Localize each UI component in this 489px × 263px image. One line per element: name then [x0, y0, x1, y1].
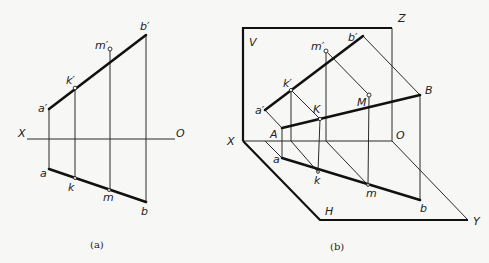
label-k: k: [68, 181, 75, 194]
label-o: O: [176, 127, 185, 140]
label-a-prime: a′: [255, 104, 265, 117]
label-b: b: [420, 202, 427, 215]
label-a-prime: a′: [38, 102, 48, 115]
label-M: M: [357, 96, 367, 109]
projection-diagram: b′ m′ k′ a′ X O a k m b (a): [0, 0, 489, 263]
label-m-prime: m′: [311, 40, 325, 53]
label-z: Z: [397, 12, 406, 25]
label-k-prime: k′: [66, 74, 75, 87]
point-K: [318, 117, 321, 120]
projector-a-prime-A: [265, 110, 282, 128]
label-k-prime: k′: [283, 77, 292, 90]
label-y: Y: [473, 215, 481, 228]
point-m-prime: [324, 49, 328, 53]
label-a: a: [273, 153, 280, 166]
caption-b: (b): [330, 241, 344, 252]
point-m-prime: [108, 47, 112, 51]
label-B: B: [425, 84, 433, 97]
line-ab: [282, 158, 420, 200]
caption-a: (a): [90, 239, 104, 250]
label-m: m: [103, 191, 114, 204]
label-b-prime: b′: [140, 20, 150, 33]
label-v: V: [249, 36, 258, 49]
line-ab: [49, 169, 146, 202]
vertical-K-k: [318, 119, 320, 172]
point-m: [367, 184, 370, 187]
point-M: [367, 93, 371, 97]
label-h: H: [325, 205, 333, 218]
label-x: X: [226, 135, 235, 148]
point-k: [317, 171, 320, 174]
label-b: b: [141, 205, 148, 218]
label-A: A: [269, 128, 278, 141]
label-x: X: [17, 127, 26, 140]
label-o: O: [396, 129, 405, 142]
figure-b: V Z b′ m′ k′ a′ K M B A X O a k m b H Y …: [226, 12, 481, 252]
label-b-prime: b′: [348, 31, 358, 44]
label-K: K: [313, 103, 321, 116]
label-a: a: [40, 167, 47, 180]
point-k: [74, 177, 77, 180]
line-AB: [282, 95, 420, 128]
figure-a: b′ m′ k′ a′ X O a k m b (a): [17, 20, 185, 250]
y-axis-line: [392, 141, 468, 220]
label-m: m: [366, 187, 377, 200]
label-k: k: [314, 174, 321, 187]
label-m-prime: m′: [95, 39, 109, 52]
